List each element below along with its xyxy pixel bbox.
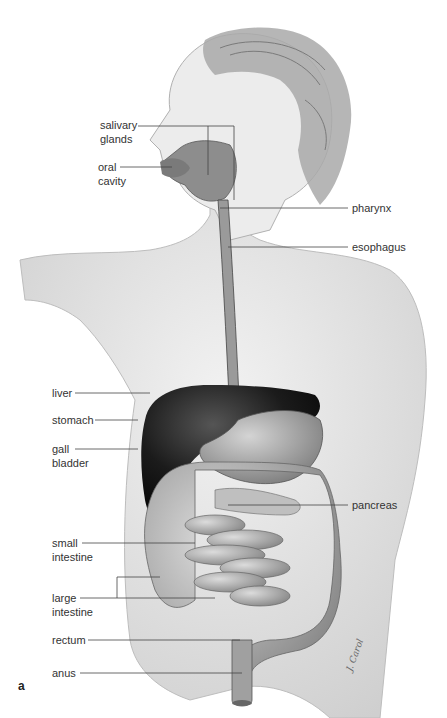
label-large-intestine: large intestine bbox=[52, 591, 93, 619]
label-rectum: rectum bbox=[52, 633, 86, 647]
label-gall-bladder: gall bladder bbox=[52, 442, 89, 470]
label-salivary-line2: glands bbox=[100, 132, 137, 146]
label-gall-line1: gall bbox=[52, 442, 89, 456]
label-pharynx: pharynx bbox=[352, 201, 391, 215]
label-stomach: stomach bbox=[52, 413, 94, 427]
label-large-line1: large bbox=[52, 591, 93, 605]
label-anus: anus bbox=[52, 666, 76, 680]
label-small-line1: small bbox=[52, 536, 93, 550]
label-oral-line1: oral bbox=[98, 160, 126, 174]
label-small-intestine: small intestine bbox=[52, 536, 93, 564]
label-liver: liver bbox=[52, 386, 72, 400]
label-esophagus: esophagus bbox=[352, 240, 406, 254]
panel-letter: a bbox=[18, 679, 25, 693]
label-oral-cavity: oral cavity bbox=[98, 160, 126, 188]
label-salivary-line1: salivary bbox=[100, 118, 137, 132]
label-small-line2: intestine bbox=[52, 550, 93, 564]
label-gall-line2: bladder bbox=[52, 456, 89, 470]
label-oral-line2: cavity bbox=[98, 174, 126, 188]
label-salivary-glands: salivary glands bbox=[100, 118, 137, 146]
anus-organ bbox=[232, 700, 252, 706]
label-pancreas: pancreas bbox=[352, 498, 397, 512]
label-large-line2: intestine bbox=[52, 605, 93, 619]
